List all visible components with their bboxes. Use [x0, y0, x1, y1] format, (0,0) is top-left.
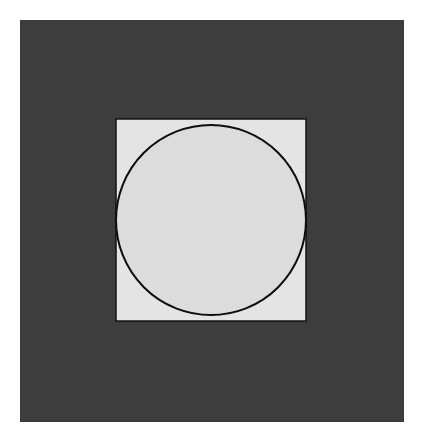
inscribed-circle: [116, 125, 306, 315]
image-canvas: [0, 0, 421, 442]
geometric-figure: [0, 0, 421, 442]
